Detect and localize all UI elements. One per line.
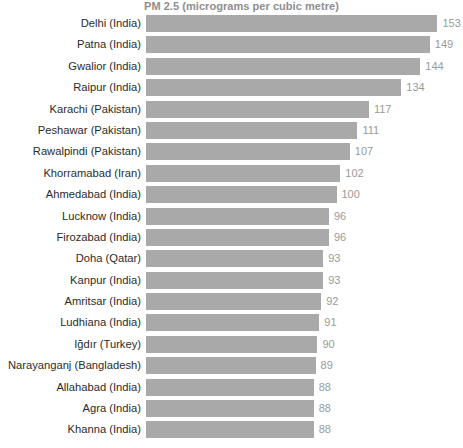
bar bbox=[146, 165, 340, 182]
bar-category-label: Lucknow (India) bbox=[0, 208, 141, 225]
bar bbox=[146, 143, 350, 160]
bar-category-label: Allahabad (India) bbox=[0, 379, 141, 396]
bar-track: 88 bbox=[146, 421, 463, 438]
bar-category-label: Doha (Qatar) bbox=[0, 250, 141, 267]
bar-value-label: 153 bbox=[442, 16, 460, 31]
bar-row: Ahmedabad (India)100 bbox=[0, 186, 463, 207]
bar-track: 96 bbox=[146, 208, 463, 225]
bar-value-label: 149 bbox=[435, 37, 453, 52]
bar bbox=[146, 122, 357, 139]
bar-value-label: 134 bbox=[406, 80, 424, 95]
bar-value-label: 96 bbox=[334, 209, 346, 224]
bar-row: Kanpur (India)93 bbox=[0, 272, 463, 293]
bar bbox=[146, 36, 430, 53]
bar-row: Rawalpindi (Pakistan)107 bbox=[0, 143, 463, 164]
chart-title: PM 2.5 (micrograms per cubic metre) bbox=[144, 0, 339, 13]
bar-value-label: 93 bbox=[328, 273, 340, 288]
bar-value-label: 90 bbox=[322, 337, 334, 352]
bar-track: 90 bbox=[146, 336, 463, 353]
bar-track: 100 bbox=[146, 186, 463, 203]
bar-row: Iğdır (Turkey)90 bbox=[0, 336, 463, 357]
bar-value-label: 144 bbox=[425, 59, 443, 74]
bar bbox=[146, 229, 329, 246]
bar-category-label: Iğdır (Turkey) bbox=[0, 336, 141, 353]
bar-category-label: Raipur (India) bbox=[0, 79, 141, 96]
bar-value-label: 88 bbox=[319, 380, 331, 395]
bar-row: Patna (India)149 bbox=[0, 36, 463, 57]
bar-row: Raipur (India)134 bbox=[0, 79, 463, 100]
bar-category-label: Agra (India) bbox=[0, 400, 141, 417]
bar-track: 111 bbox=[146, 122, 463, 139]
bar bbox=[146, 314, 319, 331]
bar-track: 117 bbox=[146, 101, 463, 118]
bar-track: 144 bbox=[146, 58, 463, 75]
bar bbox=[146, 357, 316, 374]
bar-value-label: 93 bbox=[328, 251, 340, 266]
bar bbox=[146, 379, 314, 396]
bar-category-label: Khorramabad (Iran) bbox=[0, 165, 141, 182]
bar-value-label: 92 bbox=[326, 294, 338, 309]
bar-value-label: 102 bbox=[345, 166, 363, 181]
bar-track: 88 bbox=[146, 400, 463, 417]
bar-category-label: Firozabad (India) bbox=[0, 229, 141, 246]
bar-track: 102 bbox=[146, 165, 463, 182]
bar-value-label: 117 bbox=[374, 102, 392, 117]
bar-category-label: Khanna (India) bbox=[0, 421, 141, 438]
bar-value-label: 88 bbox=[319, 422, 331, 437]
bar-track: 96 bbox=[146, 229, 463, 246]
bar-category-label: Patna (India) bbox=[0, 36, 141, 53]
bar-category-label: Narayanganj (Bangladesh) bbox=[0, 357, 141, 374]
bar-track: 92 bbox=[146, 293, 463, 310]
bar-row: Amritsar (India)92 bbox=[0, 293, 463, 314]
bar-value-label: 91 bbox=[324, 315, 336, 330]
bar-row: Allahabad (India)88 bbox=[0, 379, 463, 400]
bar bbox=[146, 336, 317, 353]
bar-category-label: Delhi (India) bbox=[0, 15, 141, 32]
bar-category-label: Kanpur (India) bbox=[0, 272, 141, 289]
bar bbox=[146, 272, 323, 289]
bar-row: Karachi (Pakistan)117 bbox=[0, 101, 463, 122]
bar-value-label: 100 bbox=[342, 187, 360, 202]
bar-category-label: Ahmedabad (India) bbox=[0, 186, 141, 203]
bar-value-label: 88 bbox=[319, 401, 331, 416]
bar-row: Ludhiana (India)91 bbox=[0, 314, 463, 335]
bar-value-label: 107 bbox=[355, 144, 373, 159]
bar-track: 153 bbox=[146, 15, 463, 32]
bar-row: Gwalior (India)144 bbox=[0, 58, 463, 79]
bar-track: 134 bbox=[146, 79, 463, 96]
bar-category-label: Peshawar (Pakistan) bbox=[0, 122, 141, 139]
bar bbox=[146, 15, 437, 32]
bar-row: Khorramabad (Iran)102 bbox=[0, 165, 463, 186]
bar-track: 91 bbox=[146, 314, 463, 331]
bar-track: 149 bbox=[146, 36, 463, 53]
bar-category-label: Karachi (Pakistan) bbox=[0, 101, 141, 118]
bar-track: 93 bbox=[146, 272, 463, 289]
bar bbox=[146, 250, 323, 267]
bar bbox=[146, 101, 369, 118]
bar bbox=[146, 58, 420, 75]
bar-category-label: Ludhiana (India) bbox=[0, 314, 141, 331]
bar bbox=[146, 293, 321, 310]
bar bbox=[146, 186, 337, 203]
bar-category-label: Amritsar (India) bbox=[0, 293, 141, 310]
bar-row: Lucknow (India)96 bbox=[0, 208, 463, 229]
pm25-bar-chart: PM 2.5 (micrograms per cubic metre) Delh… bbox=[0, 0, 463, 448]
bar-rows-container: Delhi (India)153Patna (India)149Gwalior … bbox=[0, 15, 463, 443]
bar-row: Khanna (India)88 bbox=[0, 421, 463, 442]
bar-track: 89 bbox=[146, 357, 463, 374]
bar-row: Firozabad (India)96 bbox=[0, 229, 463, 250]
bar-value-label: 96 bbox=[334, 230, 346, 245]
bar-track: 107 bbox=[146, 143, 463, 160]
bar-track: 88 bbox=[146, 379, 463, 396]
bar bbox=[146, 400, 314, 417]
bar bbox=[146, 79, 401, 96]
bar-row: Peshawar (Pakistan)111 bbox=[0, 122, 463, 143]
bar-track: 93 bbox=[146, 250, 463, 267]
bar-value-label: 111 bbox=[362, 123, 379, 138]
bar-category-label: Gwalior (India) bbox=[0, 58, 141, 75]
bar-row: Doha (Qatar)93 bbox=[0, 250, 463, 271]
bar-row: Delhi (India)153 bbox=[0, 15, 463, 36]
bar-value-label: 89 bbox=[321, 358, 333, 373]
bar-category-label: Rawalpindi (Pakistan) bbox=[0, 143, 141, 160]
bar-row: Narayanganj (Bangladesh)89 bbox=[0, 357, 463, 378]
